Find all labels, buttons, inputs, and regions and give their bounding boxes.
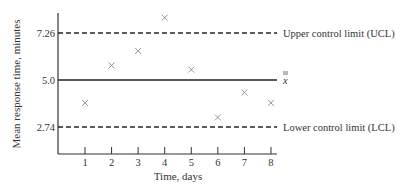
y-tick-label: 7.26 (37, 28, 55, 39)
data-point (109, 62, 115, 68)
x-tick-label: 2 (109, 157, 114, 168)
lcl-label: Lower control limit (LCL) (283, 122, 395, 134)
x-tick-label: 3 (136, 157, 141, 168)
ucl-label: Upper control limit (UCL) (283, 28, 395, 40)
x-tick-label: 4 (162, 157, 168, 168)
y-tick-label: 5.0 (42, 75, 55, 86)
data-point (188, 67, 194, 73)
y-tick-label: 2.74 (37, 122, 56, 133)
x-tick-label: 1 (82, 157, 87, 168)
x-tick-label: 8 (268, 157, 273, 168)
data-point (135, 48, 141, 54)
y-tick-labels: 2.745.07.26 (37, 28, 56, 133)
data-point (215, 114, 221, 120)
control-chart: Upper control limit (UCL)xLower control … (0, 0, 415, 187)
data-points (82, 15, 274, 121)
center-label: x (282, 75, 288, 86)
x-tick-label: 7 (242, 157, 247, 168)
data-point (82, 100, 88, 106)
axes (58, 13, 277, 154)
x-axis-title: Time, days (154, 170, 203, 182)
x-tick-label: 5 (189, 157, 194, 168)
y-axis-title: Mean response time, minutes (10, 20, 22, 149)
data-point (241, 89, 247, 95)
data-point (268, 100, 274, 106)
x-tick-label: 6 (215, 157, 220, 168)
reference-lines: Upper control limit (UCL)xLower control … (58, 28, 395, 134)
x-ticks: 12345678 (82, 147, 273, 168)
data-point (162, 15, 168, 21)
